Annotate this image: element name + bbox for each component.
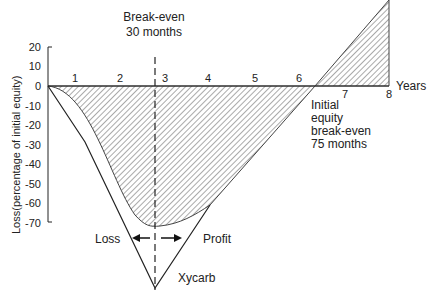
svg-text:-30: -30 xyxy=(25,139,41,151)
shaded-area-profit xyxy=(315,0,389,86)
svg-text:break-even: break-even xyxy=(311,124,371,138)
loss-label: Loss xyxy=(95,232,120,246)
svg-text:5: 5 xyxy=(252,72,258,84)
svg-text:1: 1 xyxy=(72,72,78,84)
svg-text:7: 7 xyxy=(342,88,348,100)
svg-text:2: 2 xyxy=(117,72,123,84)
svg-text:10: 10 xyxy=(29,60,41,72)
y-tick-labels: 20 10 0 -10 -20 -30 -40 -50 -60 -70 xyxy=(25,41,41,229)
svg-text:4: 4 xyxy=(205,72,211,84)
svg-text:equity: equity xyxy=(311,111,343,125)
svg-text:-70: -70 xyxy=(25,217,41,229)
svg-text:3: 3 xyxy=(162,72,168,84)
xycarb-label: Xycarb xyxy=(178,271,216,285)
y-axis-label: Loss(percentage of initial equity) xyxy=(10,76,22,234)
profit-arrow-icon xyxy=(161,234,182,242)
svg-text:20: 20 xyxy=(29,41,41,53)
svg-text:Initial: Initial xyxy=(311,98,339,112)
svg-text:-50: -50 xyxy=(25,178,41,190)
svg-text:8: 8 xyxy=(386,88,392,100)
svg-text:-20: -20 xyxy=(25,119,41,131)
svg-text:-40: -40 xyxy=(25,158,41,170)
svg-text:6: 6 xyxy=(296,72,302,84)
svg-text:75 months: 75 months xyxy=(311,137,367,151)
loss-arrow-icon xyxy=(132,234,150,242)
svg-text:0: 0 xyxy=(35,80,41,92)
svg-text:-10: -10 xyxy=(25,100,41,112)
profit-label: Profit xyxy=(203,232,232,246)
breakeven-annotation: Break-even 30 months xyxy=(123,10,184,39)
chart: 20 10 0 -10 -20 -30 -40 -50 -60 -70 1 2 … xyxy=(0,0,437,301)
svg-text:-60: -60 xyxy=(25,197,41,209)
shaded-area xyxy=(48,86,315,226)
svg-text:30 months: 30 months xyxy=(126,25,182,39)
initial-equity-annotation: Initial equity break-even 75 months xyxy=(311,98,371,151)
svg-text:Break-even: Break-even xyxy=(123,10,184,24)
x-axis-label: Years xyxy=(396,79,426,93)
